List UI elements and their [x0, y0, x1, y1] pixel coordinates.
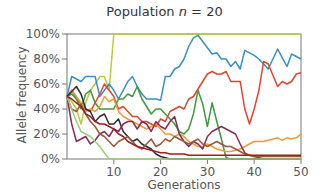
- x-tick-label: 20: [153, 165, 168, 179]
- series-line-brown: [67, 97, 301, 157]
- series-line-green: [67, 87, 301, 160]
- series-line-dark-red: [67, 97, 301, 156]
- y-tick-label: 40%: [33, 102, 60, 116]
- x-tick-label: 40: [247, 165, 262, 179]
- y-tick-label: 20%: [33, 127, 60, 141]
- series-line-yellow-green: [67, 34, 301, 124]
- x-tick-label: 10: [106, 165, 121, 179]
- data-series: [67, 34, 301, 159]
- y-tick-label: 60%: [33, 77, 60, 91]
- y-tick-label: 0%: [41, 152, 60, 166]
- y-tick-label: 100%: [26, 27, 60, 41]
- series-line-dark: [67, 87, 301, 160]
- x-tick-label: 50: [293, 165, 308, 179]
- line-chart: 0%20%40%60%80%100%1020304050: [0, 0, 325, 196]
- series-line-light-green: [67, 97, 301, 160]
- y-tick-label: 80%: [33, 52, 60, 66]
- x-tick-label: 30: [200, 165, 215, 179]
